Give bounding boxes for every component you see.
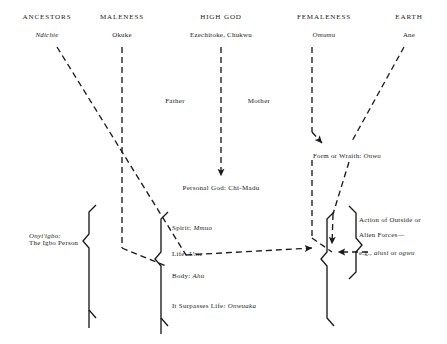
constituent-body: Body: Ahu: [172, 272, 204, 279]
term-ndichie: Ndichie: [35, 31, 58, 38]
term-omumu: Omumu: [312, 31, 335, 38]
term-ezechitoke: Ezechitoke, Chukwu: [190, 31, 252, 38]
header-femaleness: FEMALENESS: [297, 14, 351, 21]
constituent-body-label: Body:: [172, 272, 190, 279]
term-okuke: Okuke: [112, 31, 132, 38]
alien-forces-examples: e.g., alusi or ogwu: [359, 249, 415, 256]
alien-forces-line2: Alien Forces—: [359, 231, 405, 238]
constituent-life-term: Ume: [189, 250, 203, 257]
header-ancestors: ANCESTORS: [23, 14, 72, 21]
term-ane: Ane: [403, 31, 415, 38]
alien-forces-term-alusi: alusi: [374, 249, 389, 256]
alien-forces-term-ogwu: ogwu: [399, 249, 415, 256]
label-igbo-person: Onyi'igbo: The Igbo Person: [29, 232, 78, 247]
label-personal-god: Personal God: Chi-Madu: [183, 185, 260, 192]
constituent-spirit-term: Mmuo: [193, 224, 212, 231]
constituent-surpasses-label: It Surpasses Life:: [172, 302, 226, 309]
alien-forces-conj: or: [389, 249, 399, 256]
header-high-god: HIGH GOD: [200, 14, 242, 21]
igbo-person-gloss: The Igbo Person: [29, 239, 78, 246]
alien-forces-line1: Action of Outside or: [359, 216, 421, 223]
igbo-person-term: Onyi'igbo:: [29, 232, 61, 239]
label-father: Father: [165, 98, 185, 105]
header-maleness: MALENESS: [100, 14, 144, 21]
cosmology-diagram-canvas: [0, 0, 447, 344]
brace-igbo-person: [83, 205, 96, 318]
constituent-spirit-label: Spirit:: [172, 224, 191, 231]
line-earth-arrow: [332, 214, 333, 244]
alien-forces-eg: e.g.,: [359, 249, 374, 256]
line-earth-lower: [333, 162, 349, 214]
constituent-surpasses-life: It Surpasses Life: Onwuaka: [172, 302, 256, 309]
constituent-life-label: Life:: [172, 250, 187, 257]
line-femaleness-hook: [312, 132, 322, 143]
label-mother: Mother: [248, 98, 270, 105]
label-form-or-wraith: Form or Wraith: Onwu: [313, 152, 381, 159]
line-femaleness-foot: [312, 238, 332, 252]
line-ancestors-tail: [186, 248, 312, 255]
wraith-label: Form or Wraith:: [313, 152, 362, 159]
constituent-life: Life: Ume: [172, 250, 203, 257]
constituent-body-term: Ahu: [192, 272, 204, 279]
brace-constituents: [155, 212, 168, 326]
constituent-surpasses-term: Onwuaka: [228, 302, 257, 309]
constituent-spirit: Spirit: Mmuo: [172, 224, 212, 231]
line-earth: [351, 47, 404, 143]
header-earth: EARTH: [395, 14, 422, 21]
wraith-term: Onwu: [364, 152, 381, 159]
